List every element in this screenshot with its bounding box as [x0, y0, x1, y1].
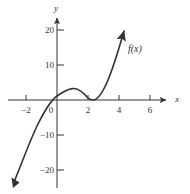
x-tick-label-0: 0 [49, 106, 54, 115]
y-tick-label-10: 10 [32, 61, 54, 70]
x-tick-label-4: 4 [117, 106, 122, 115]
y-tick-label-neg20: −20 [28, 166, 54, 175]
x-axis-label: x [175, 95, 179, 104]
y-tick-label-neg10: −10 [28, 131, 54, 140]
function-label: f(x) [128, 44, 142, 53]
x-tick-label-neg2: −2 [21, 106, 31, 115]
figure-container: y x f(x) −2 0 2 4 6 20 10 −10 −20 [0, 0, 190, 194]
y-tick-label-20: 20 [32, 26, 54, 35]
x-tick-label-6: 6 [148, 106, 153, 115]
x-tick-label-2: 2 [86, 106, 91, 115]
y-axis-label: y [54, 4, 58, 13]
